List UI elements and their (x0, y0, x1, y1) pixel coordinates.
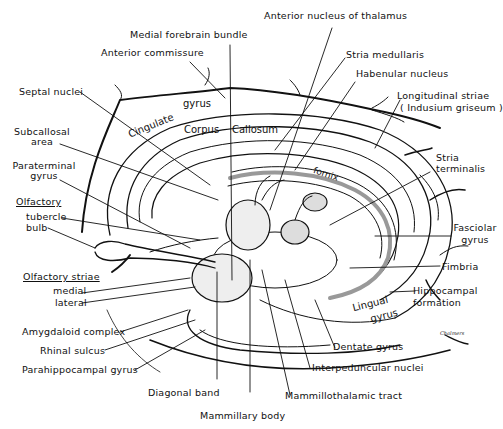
label-indusium-griseum: ( Indusium griseum ) (400, 102, 503, 113)
label-bulb: bulb (26, 222, 48, 233)
label-anterior-nucleus-thalamus: Anterior nucleus of thalamus (264, 10, 407, 21)
label-tubercle: tubercle (26, 211, 67, 222)
label-corpus: Corpus (184, 124, 219, 135)
label-medial-forebrain-bundle: Medial forebrain bundle (130, 29, 248, 40)
label-subcallosal-area: area (12, 136, 72, 147)
label-hippocampal-formation: formation (413, 297, 461, 308)
label-fasciolar-gyrus: gyrus (450, 234, 500, 245)
label-longitudinal-striae: Longitudinal striae (397, 90, 489, 101)
label-mammillothalamic-tract: Mammillothalamic tract (285, 390, 402, 401)
label-diagonal-band: Diagonal band (148, 387, 220, 398)
label-olfactory-striae: Olfactory striae (23, 271, 100, 282)
label-lateral: lateral (55, 297, 87, 308)
label-callosum: Callosum (232, 124, 278, 135)
label-stria-medullaris: Stria medullaris (346, 49, 424, 60)
label-terminalis: terminalis (436, 163, 485, 174)
label-interpeduncular-nuclei: Interpeduncular nuclei (312, 362, 424, 373)
label-hippocampal: Hippocampal (413, 285, 478, 296)
label-medial: medial (53, 285, 86, 296)
label-fasciolar: Fasciolar (450, 222, 500, 233)
label-parahippocampal-gyrus: Parahippocampal gyrus (22, 364, 138, 375)
label-anterior-commissure: Anterior commissure (101, 47, 204, 58)
label-dentate-gyrus: Dentate gyrus (333, 341, 403, 352)
label-mammillary-body: Mammillary body (200, 410, 285, 421)
artist-signature: Chalmers (440, 330, 464, 336)
label-rhinal-sulcus: Rhinal sulcus (40, 345, 105, 356)
label-habenular-nucleus: Habenular nucleus (356, 68, 448, 79)
label-amygdaloid-complex: Amygdaloid complex (22, 326, 125, 337)
label-paraterminal-gyrus: gyrus (12, 170, 76, 181)
label-olfactory: Olfactory (16, 196, 61, 207)
label-fimbria: Fimbria (442, 261, 478, 272)
label-stria: Stria (436, 152, 459, 163)
label-septal-nuclei: Septal nuclei (19, 86, 83, 97)
label-cingulate-gyrus: gyrus (183, 98, 211, 109)
